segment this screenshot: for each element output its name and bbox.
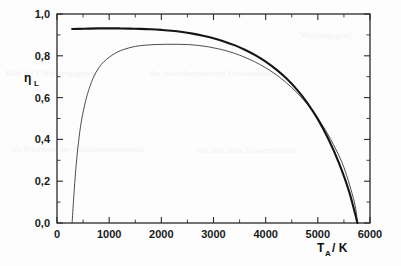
y-tick-label: 0,0 xyxy=(35,217,50,229)
x-axis-tick-labels: 0100020003000400050006000 xyxy=(54,228,382,240)
x-tick-label: 3000 xyxy=(201,228,225,240)
y-axis-ticks xyxy=(57,14,370,223)
x-axis-ticks xyxy=(57,14,370,223)
data-curves xyxy=(72,28,357,223)
y-tick-label: 0,2 xyxy=(35,175,50,187)
chart-figure: Bild 4.11 Wirkungsgrade der solarthermis… xyxy=(0,0,401,266)
lower-efficiency-curve xyxy=(72,44,357,223)
x-tick-label: 1000 xyxy=(97,228,121,240)
y-axis-title-sub: L xyxy=(34,79,39,88)
y-tick-label: 0,4 xyxy=(35,133,51,145)
x-tick-label: 4000 xyxy=(253,228,277,240)
chart-svg: 0100020003000400050006000 0,00,20,40,60,… xyxy=(0,0,401,266)
plot-frame xyxy=(57,14,370,223)
x-axis-title-base: T xyxy=(317,241,325,255)
x-tick-label: 2000 xyxy=(149,228,173,240)
x-axis-title-unit: / K xyxy=(332,241,348,255)
y-axis-tick-labels: 0,00,20,40,60,81,0 xyxy=(35,8,51,229)
x-tick-label: 0 xyxy=(54,228,60,240)
x-axis-title-sub: A xyxy=(325,249,331,258)
x-tick-label: 6000 xyxy=(358,228,382,240)
y-tick-label: 0,8 xyxy=(35,50,50,62)
x-tick-label: 5000 xyxy=(306,228,330,240)
y-tick-label: 1,0 xyxy=(35,8,50,20)
y-tick-label: 0,6 xyxy=(35,92,50,104)
y-axis-title-base: η xyxy=(24,71,31,85)
y-axis-title: η L xyxy=(24,71,39,88)
x-axis-title: T A / K xyxy=(317,241,348,258)
upper-efficiency-curve xyxy=(72,28,357,223)
